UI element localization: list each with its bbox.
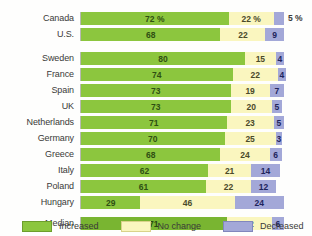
chart-row: Italy622114 [0,164,312,177]
bar-track: 612212 [80,180,286,193]
row-label-canada: Canada [0,12,80,25]
bar-segment-increased: 70 [81,132,225,145]
bar-segment-increased: 62 [81,164,208,177]
bar-segment-no-change: 24 [220,148,269,161]
bar-track: 80154 [80,52,286,65]
segment-value: 22 [251,70,260,80]
segment-value: 24 [255,198,264,208]
segment-value: 72 % [145,14,164,24]
bar-segment-decreased: 3 [276,132,282,145]
chart-row: Netherlands71235 [0,116,312,129]
bar-segment-decreased: 9 [265,28,283,41]
segment-value: 29 [106,198,115,208]
row-label-germany: Germany [0,132,80,145]
segment-value: 22 % [241,14,260,24]
bar-segment-no-change: 22 % [229,12,274,25]
bar-segment-decreased: 7 [270,84,284,97]
bar-segment-decreased: 5 [274,116,284,129]
bar-segment-increased: 80 [81,52,245,65]
segment-value: 73 [151,86,160,96]
segment-value: 14 [261,166,270,176]
legend-item-no-change[interactable]: No change [121,221,202,232]
bar-segment-increased: 61 [81,180,206,193]
row-label-france: France [0,68,80,81]
stacked-bar-chart: Canada72 %22 %5 %U.S.68229Sweden80154Fra… [0,0,312,236]
bar-segment-no-change: 22 [206,180,251,193]
legend-item-decreased[interactable]: Decreased [223,221,304,232]
chart-row: France74224 [0,68,312,81]
chart-row: Hungary294624 [0,196,312,209]
bar-segment-decreased: 6 [270,148,282,161]
bar-segment-decreased: 5 [272,100,282,113]
bar-segment-decreased: 5 % [274,12,284,25]
bar-segment-no-change: 46 [140,196,234,209]
segment-value: 19 [245,86,254,96]
chart-row: UK73205 [0,100,312,113]
bar-segment-increased: 73 [81,100,231,113]
segment-value: 12 [259,182,268,192]
segment-value: 74 [152,70,161,80]
chart-row: Canada72 %22 %5 % [0,12,312,25]
bar-track: 74224 [80,68,286,81]
bar-segment-increased: 68 [81,28,220,41]
segment-value: 4 [277,54,282,64]
bar-track: 72 %22 %5 % [80,12,286,25]
row-label-uk: UK [0,100,80,113]
legend-swatch-decreased [223,221,253,232]
bar-segment-no-change: 19 [231,84,270,97]
bar-track: 73205 [80,100,286,113]
chart-row: Poland612212 [0,180,312,193]
bar-segment-increased: 68 [81,148,220,161]
bar-segment-decreased: 14 [251,164,280,177]
segment-value: 80 [158,54,167,64]
bar-segment-increased: 73 [81,84,231,97]
chart-rows: Canada72 %22 %5 %U.S.68229Sweden80154Fra… [0,12,312,233]
bar-segment-increased: 74 [81,68,233,81]
chart-legend: IncreasedNo changeDecreased [22,221,312,232]
bar-track: 71235 [80,116,286,129]
bar-track: 73197 [80,84,286,97]
segment-value: 62 [140,166,149,176]
bar-segment-decreased: 24 [235,196,284,209]
bar-segment-no-change: 20 [231,100,272,113]
chart-row: U.S.68229 [0,28,312,41]
row-label-sweden: Sweden [0,52,80,65]
legend-swatch-no-change [121,221,151,232]
segment-value: 6 [273,150,278,160]
bar-segment-no-change: 22 [220,28,265,41]
segment-value: 7 [274,86,279,96]
bar-segment-no-change: 15 [245,52,276,65]
bar-track: 68246 [80,148,286,161]
segment-value: 20 [246,102,255,112]
bar-segment-decreased: 12 [251,180,276,193]
bar-segment-no-change: 23 [227,116,274,129]
bar-segment-decreased: 4 [278,68,286,81]
segment-value: 71 [149,118,158,128]
segment-value: 5 [274,102,279,112]
chart-title-strip [0,0,312,11]
segment-value: 15 [256,54,265,64]
legend-item-increased[interactable]: Increased [22,221,99,232]
legend-label-increased: Increased [59,221,99,232]
bar-segment-increased: 72 % [81,12,229,25]
segment-value: 61 [139,182,148,192]
bar-segment-no-change: 22 [233,68,278,81]
row-label-spain: Spain [0,84,80,97]
bar-segment-increased: 29 [81,196,140,209]
segment-value: 9 [272,30,277,40]
row-label-hungary: Hungary [0,196,80,209]
legend-label-no-change: No change [158,221,202,232]
bar-track: 622114 [80,164,286,177]
row-label-poland: Poland [0,180,80,193]
bar-track: 70253 [80,132,286,145]
bar-track: 68229 [80,28,286,41]
segment-value: 46 [183,198,192,208]
segment-value: 25 [245,134,254,144]
chart-row: Germany70253 [0,132,312,145]
chart-row: Greece68246 [0,148,312,161]
segment-value: 4 [280,70,285,80]
segment-value: 22 [238,30,247,40]
legend-swatch-increased [22,221,52,232]
segment-value: 68 [146,30,155,40]
bar-segment-no-change: 25 [225,132,276,145]
